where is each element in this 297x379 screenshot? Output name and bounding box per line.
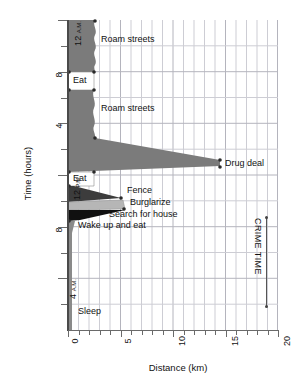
x-tick-4 (110, 331, 111, 335)
y-tick-label-12am-num: 12 (73, 36, 83, 46)
x-tick-label-20: 20 (283, 336, 292, 346)
y-tick-6 (61, 98, 67, 99)
x-tick-7 (142, 331, 143, 335)
x-tick-20 (278, 331, 279, 337)
distance-time-chart: CRIME TIME Roam streets Eat Roam streets… (0, 0, 297, 379)
y-tick-label-8am-num: 8 (54, 73, 64, 78)
y-tick-2b (61, 304, 67, 305)
area-wake-up-and-eat (68, 221, 75, 233)
x-tick-10 (173, 331, 174, 337)
label-fence: Fence (127, 185, 152, 195)
label-roam-streets-1: Roam streets (101, 34, 155, 44)
y-tick-2 (61, 149, 67, 150)
x-tick-label-10: 10 (178, 336, 187, 346)
y-tick-label-4am: 4 (55, 124, 64, 129)
x-tick-1 (79, 331, 80, 335)
label-roam-streets-2: Roam streets (101, 103, 155, 113)
x-tick-2 (89, 331, 90, 335)
x-tick-label-0: 0 (71, 338, 80, 343)
x-tick-18 (257, 331, 258, 335)
crime-time-label: CRIME TIME (253, 218, 263, 275)
y-tick-label-8pm: 8 (55, 228, 64, 233)
y-tick-label-12am: 12 A.M. (74, 21, 84, 46)
x-tick-16 (236, 331, 237, 335)
y-tick-10b (61, 201, 67, 202)
y-axis-title: Time (hours) (22, 129, 33, 219)
y-tick-label-12pm-num: 12 (72, 190, 82, 200)
x-tick-6 (131, 331, 132, 335)
label-burglarize: Burglarize (130, 197, 171, 207)
x-tick-9 (163, 331, 164, 335)
x-axis-title: Distance (km) (98, 362, 258, 373)
plot-area: CRIME TIME Roam streets Eat Roam streets… (68, 20, 278, 330)
y-tick-label-4am2-ampm: A.M. (71, 279, 77, 291)
y-tick-12am (58, 20, 67, 21)
x-tick-11 (184, 331, 185, 335)
x-tick-3 (100, 331, 101, 335)
label-wake-up-and-eat: Wake up and eat (78, 220, 146, 230)
crime-time-bracket (266, 218, 267, 306)
x-tick-label-15: 15 (231, 336, 240, 346)
x-tick-13 (205, 331, 206, 335)
activity-path-series (68, 20, 278, 330)
y-tick-label-4am-num: 4 (54, 124, 64, 129)
x-tick-14 (215, 331, 216, 335)
y-tick-6b (61, 253, 67, 254)
x-tick-15 (226, 331, 227, 337)
x-tick-8 (152, 331, 153, 335)
y-tick-label-4am-2: 4 A.M. (69, 279, 79, 299)
crime-time-dot-bottom (265, 305, 268, 308)
y-tick-label-12am-ampm: A.M. (76, 21, 82, 33)
label-sleep: Sleep (78, 306, 101, 316)
y-tick-10 (61, 46, 67, 47)
area-roam-streets-2 (68, 90, 95, 138)
y-tick-label-12pm: 12 P.M. (73, 176, 83, 200)
x-tick-12 (194, 331, 195, 335)
y-tick-label-12pm-ampm: P.M. (75, 176, 81, 188)
label-drug-deal: Drug deal (225, 158, 264, 168)
y-tick-label-4am2-num: 4 (68, 294, 78, 299)
y-tick-4am2 (58, 278, 67, 279)
x-tick-19 (268, 331, 269, 335)
label-eat-1: Eat (73, 75, 87, 85)
x-tick-label-5: 5 (123, 338, 132, 343)
label-search-for-house: Search for house (109, 209, 178, 219)
y-tick-label-8pm-num: 8 (54, 228, 64, 233)
crime-time-dot-top (265, 216, 268, 219)
area-drug-deal (68, 138, 220, 172)
y-tick-12pm (58, 175, 67, 176)
x-tick-0 (68, 331, 69, 337)
x-tick-17 (247, 331, 248, 335)
y-tick-label-8am: 8 (55, 73, 64, 78)
x-tick-5 (121, 331, 122, 337)
